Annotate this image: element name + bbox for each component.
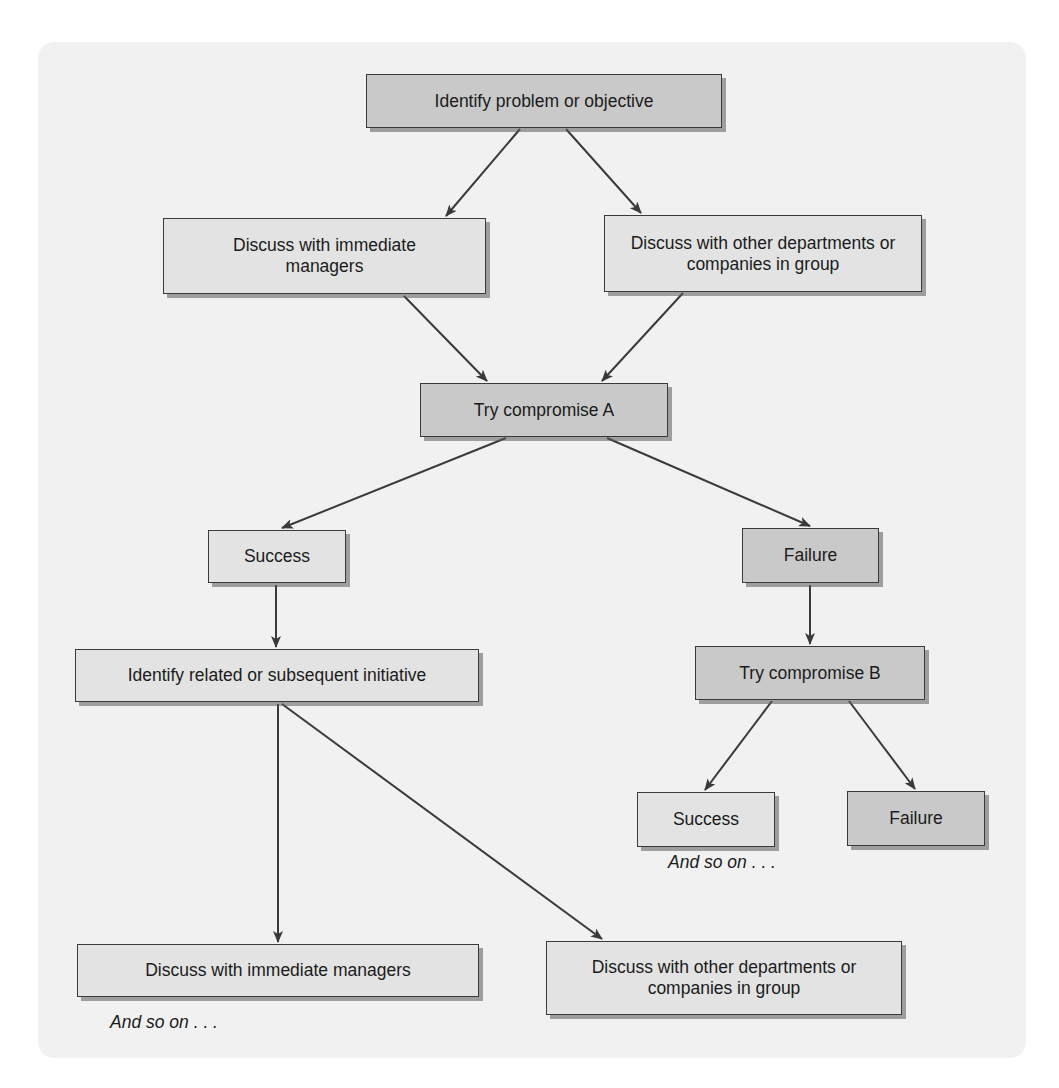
node-label: Failure	[889, 808, 943, 829]
discuss-other-2-node: Discuss with other departments or compan…	[546, 941, 902, 1015]
and-so-on-note-left: And so on . . .	[110, 1012, 218, 1033]
node-label: Success	[673, 809, 739, 830]
node-label: Discuss with other departments or compan…	[623, 233, 903, 275]
identify-related-node: Identify related or subsequent initiativ…	[75, 649, 479, 702]
success-b-node: Success	[637, 792, 775, 847]
node-label: Try compromise B	[739, 663, 880, 684]
node-label: Discuss with immediate managers	[210, 235, 440, 277]
node-label: Identify related or subsequent initiativ…	[128, 665, 427, 686]
identify-problem-node: Identify problem or objective	[366, 74, 722, 128]
discuss-managers-2-node: Discuss with immediate managers	[77, 944, 479, 997]
node-label: Try compromise A	[474, 400, 614, 421]
discuss-other-node: Discuss with other departments or compan…	[604, 215, 922, 292]
failure-a-node: Failure	[742, 528, 879, 583]
try-compromise-a-node: Try compromise A	[420, 383, 668, 437]
node-label: Identify problem or objective	[435, 91, 654, 112]
failure-b-node: Failure	[847, 791, 985, 846]
node-label: Discuss with immediate managers	[145, 960, 411, 981]
success-a-node: Success	[208, 530, 346, 583]
node-label: Failure	[784, 545, 838, 566]
node-label: Success	[244, 546, 310, 567]
discuss-managers-node: Discuss with immediate managers	[163, 218, 486, 294]
try-compromise-b-node: Try compromise B	[695, 646, 925, 700]
node-label: Discuss with other departments or compan…	[579, 957, 869, 999]
and-so-on-note-right: And so on . . .	[668, 852, 776, 873]
